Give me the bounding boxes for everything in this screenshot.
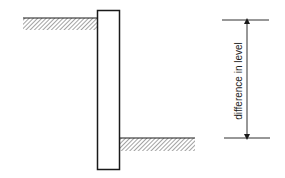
retaining-wall xyxy=(98,11,120,170)
dimension-label: difference in level xyxy=(233,42,244,120)
upper-ground xyxy=(23,18,97,30)
lower-ground-hatch xyxy=(120,138,195,151)
retaining-wall-diagram: difference in level xyxy=(0,0,285,178)
lower-ground xyxy=(120,138,195,151)
upper-ground-hatch xyxy=(23,18,97,30)
level-difference-dimension: difference in level xyxy=(222,20,270,138)
